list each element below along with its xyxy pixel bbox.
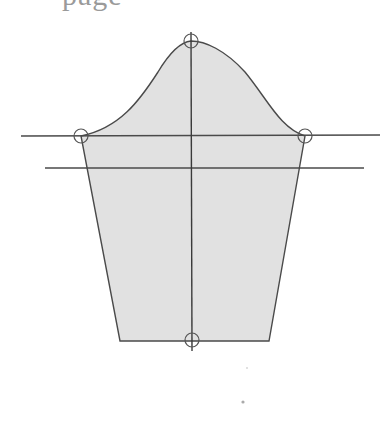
- bicep-line: [21, 135, 380, 136]
- sleeve-shape: [81, 41, 305, 341]
- sleeve-diagram: [0, 0, 391, 426]
- speck-artifact: [241, 400, 244, 403]
- speck-artifact: [246, 367, 248, 369]
